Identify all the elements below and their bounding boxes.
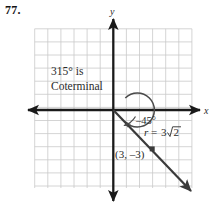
radius-equals: = [151, 126, 157, 138]
angle-diagram-svg: x y 315° is Coterminal –45° r = 3 2 (3, … [0, 0, 219, 215]
point-marker [150, 146, 155, 151]
radius-radicand: 2 [174, 126, 180, 138]
radius-variable: r [144, 126, 149, 138]
coterminal-label-line2: Coterminal [51, 80, 103, 92]
problem-number: 77. [5, 3, 21, 17]
coterminal-label-line1: 315° is [51, 65, 84, 77]
radius-coefficient: 3 [161, 126, 167, 138]
radius-label-group: r = 3 2 [144, 126, 181, 138]
negative-angle-label: –45° [135, 115, 156, 126]
point-coordinate-label: (3, –3) [115, 148, 145, 161]
x-axis-label: x [203, 105, 209, 116]
y-axis-label: y [109, 6, 115, 17]
coordinate-figure: 77. [0, 0, 219, 215]
